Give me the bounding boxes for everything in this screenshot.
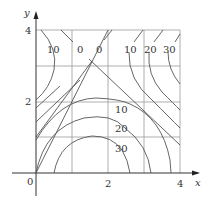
y-axis-arrow-icon <box>34 11 39 19</box>
contour-0-left-2 <box>36 80 80 122</box>
contour-10-left <box>36 30 55 100</box>
contour-top-short-3 <box>154 30 163 42</box>
origin-label: 0 <box>27 176 33 187</box>
contour-diag-short <box>61 30 73 42</box>
contour-label-0-b: 0 <box>96 44 102 55</box>
contour-label-20-mid: 20 <box>115 123 128 134</box>
contour-30-arch <box>54 136 130 173</box>
x-axis-label: x <box>195 177 201 188</box>
contour-30-right <box>168 52 180 84</box>
contour-10-right <box>129 52 180 128</box>
contour-map: 4 2 2 4 0 x y 10 0 0 10 20 30 10 20 30 <box>0 0 212 203</box>
contour-label-10-mid: 10 <box>115 104 128 115</box>
contour-label-20-topright: 20 <box>144 44 157 55</box>
contour-top-short-4 <box>175 34 180 42</box>
y-tick-2: 2 <box>25 96 31 107</box>
y-axis-label: y <box>23 7 30 18</box>
contour-label-10-topright: 10 <box>124 44 137 55</box>
x-tick-2: 2 <box>105 178 111 189</box>
contour-label-0-a: 0 <box>77 44 83 55</box>
contour-20-arch <box>36 117 151 173</box>
x-tick-4: 4 <box>177 178 183 189</box>
contour-top-short-2 <box>134 30 143 42</box>
contour-0-left-1 <box>36 61 92 137</box>
y-tick-4: 4 <box>25 25 31 36</box>
contour-label-30-mid: 30 <box>115 143 128 154</box>
contour-label-30-topright: 30 <box>163 44 176 55</box>
contour-label-10-topleft: 10 <box>47 44 60 55</box>
x-axis-arrow-icon <box>192 171 200 176</box>
